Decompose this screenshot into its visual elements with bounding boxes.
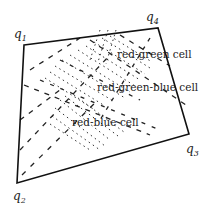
cell-label-red-green: red-green cell <box>117 48 192 60</box>
vertex-label-q3: q3 <box>186 142 199 158</box>
vertex-label-q1: q1 <box>14 27 27 43</box>
cell-label-red-green-blue: red-green-blue cell <box>97 81 199 93</box>
vertex-label-q2: q2 <box>13 189 26 205</box>
cell-label-red-blue: red-blue cell <box>72 116 139 128</box>
vertex-label-q4: q4 <box>146 10 159 26</box>
diagram-canvas: q1 q4 q3 q2 red-green cell red-green-blu… <box>0 0 206 216</box>
